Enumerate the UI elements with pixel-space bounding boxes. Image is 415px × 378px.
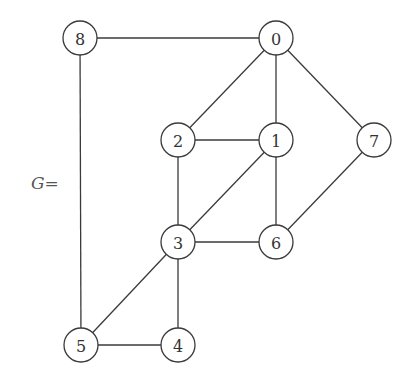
node-label: 3 — [173, 234, 183, 253]
node-4: 4 — [161, 328, 195, 362]
node-8: 8 — [63, 21, 97, 55]
node-2: 2 — [161, 123, 195, 157]
edge-3-5 — [81, 242, 178, 345]
node-0: 0 — [259, 21, 293, 55]
node-label: 0 — [271, 30, 281, 49]
edge-0-2 — [178, 38, 276, 140]
edges — [80, 38, 374, 345]
graph-diagram: 012345678 — [0, 0, 415, 378]
edge-1-3 — [178, 140, 276, 242]
edge-8-5 — [80, 38, 81, 345]
node-label: 1 — [271, 132, 281, 151]
edge-7-6 — [276, 140, 374, 242]
node-7: 7 — [357, 123, 391, 157]
node-5: 5 — [64, 328, 98, 362]
edge-0-7 — [276, 38, 374, 140]
node-label: 7 — [369, 132, 379, 151]
node-1: 1 — [259, 123, 293, 157]
node-6: 6 — [259, 225, 293, 259]
node-label: 5 — [76, 337, 86, 356]
node-label: 4 — [173, 337, 183, 356]
node-3: 3 — [161, 225, 195, 259]
node-label: 8 — [75, 30, 85, 49]
node-label: 2 — [173, 132, 183, 151]
node-label: 6 — [271, 234, 281, 253]
